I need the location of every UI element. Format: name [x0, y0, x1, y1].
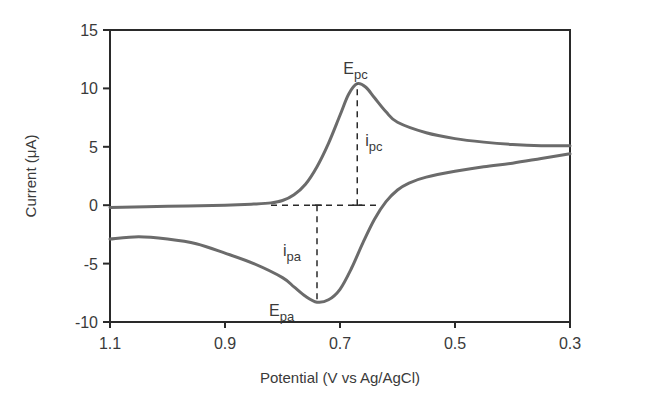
epa-label: Epa — [269, 302, 295, 324]
x-tick-label: 0.9 — [214, 335, 236, 352]
voltammogram-curves — [110, 83, 570, 302]
x-tick-label: 0.5 — [444, 335, 466, 352]
ipa-label: ipa — [283, 242, 302, 264]
x-axis-ticks: 1.10.90.70.50.3 — [99, 322, 581, 352]
y-tick-label: 5 — [89, 139, 98, 156]
x-tick-label: 1.1 — [99, 335, 121, 352]
y-tick-label: 10 — [80, 80, 98, 97]
cv-curve — [110, 83, 570, 207]
cyclic-voltammogram-chart: 151050-5-10 1.10.90.70.50.3 EpcipcEpaipa… — [0, 0, 666, 406]
x-tick-label: 0.7 — [329, 335, 351, 352]
y-tick-label: 15 — [80, 22, 98, 39]
epc-label: Epc — [343, 60, 368, 82]
x-tick-label: 0.3 — [559, 335, 581, 352]
y-axis-label: Current (μA) — [22, 135, 39, 218]
ipc-label: ipc — [365, 132, 383, 154]
y-tick-label: -5 — [84, 256, 98, 273]
y-tick-label: -10 — [75, 314, 98, 331]
plot-frame — [110, 30, 570, 322]
x-axis-label: Potential (V vs Ag/AgCl) — [260, 369, 420, 386]
y-tick-label: 0 — [89, 197, 98, 214]
cv-curve — [110, 154, 570, 303]
y-axis-ticks: 151050-5-10 — [75, 22, 110, 331]
peak-annotations: EpcipcEpaipa — [269, 60, 383, 324]
